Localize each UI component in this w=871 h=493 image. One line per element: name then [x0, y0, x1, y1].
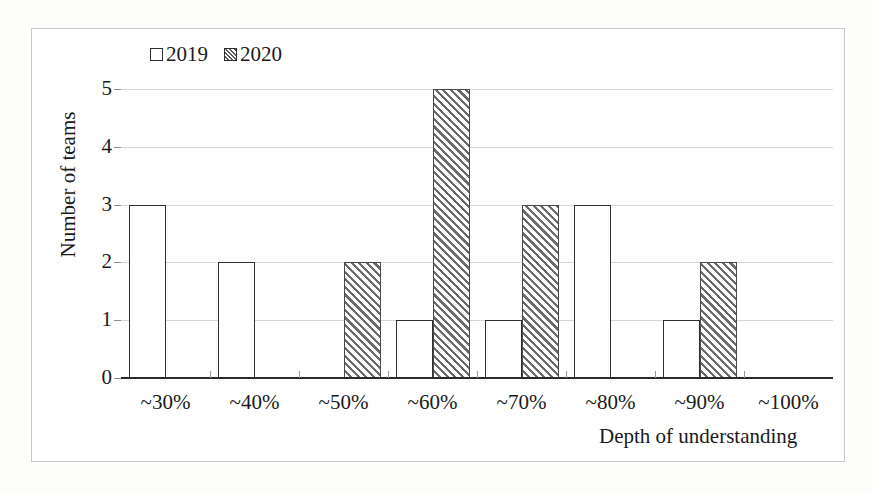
x-axis-separator-tick	[210, 371, 211, 378]
gridline	[121, 147, 833, 148]
x-axis-separator-tick	[477, 371, 478, 378]
y-axis-tick-label: 3	[84, 194, 112, 215]
legend-item-2019: 2019	[150, 44, 208, 65]
gridline	[121, 89, 833, 90]
legend-swatch-2020-hatched-icon	[224, 48, 237, 61]
x-axis-separator-tick	[566, 371, 567, 378]
x-axis-tick-label: ~100%	[744, 390, 833, 415]
bar-2019-approx-30%[interactable]	[129, 205, 166, 378]
bar-2020-approx-90%[interactable]	[700, 262, 737, 378]
x-axis-separator-tick	[388, 371, 389, 378]
y-axis-tick-mark	[114, 205, 121, 206]
x-axis-tick-label: ~80%	[566, 390, 655, 415]
bar-2019-approx-70%[interactable]	[485, 320, 522, 378]
x-axis-tick-label: ~30%	[121, 390, 210, 415]
y-axis-tick-mark	[114, 320, 121, 321]
y-axis-tick-label: 4	[84, 136, 112, 157]
bar-2019-approx-90%[interactable]	[663, 320, 700, 378]
x-axis-tick-label: ~50%	[299, 390, 388, 415]
x-axis-title: Depth of understanding	[599, 424, 797, 449]
y-axis-title: Number of teams	[56, 75, 81, 295]
bar-2019-approx-60%[interactable]	[396, 320, 433, 378]
y-axis-tick-label: 0	[84, 367, 112, 388]
bar-2019-approx-80%[interactable]	[574, 205, 611, 378]
x-axis-tick-label: ~90%	[655, 390, 744, 415]
legend-swatch-2019-empty-icon	[150, 48, 163, 61]
bar-2020-approx-50%[interactable]	[344, 262, 381, 378]
legend-label-2019: 2019	[166, 44, 208, 65]
gridline	[121, 205, 833, 206]
legend-item-2020: 2020	[224, 44, 282, 65]
y-axis-tick-label: 1	[84, 309, 112, 330]
x-axis-tick-label: ~60%	[388, 390, 477, 415]
bar-2020-approx-70%[interactable]	[522, 205, 559, 378]
x-axis-tick-label: ~40%	[210, 390, 299, 415]
y-axis-tick-label: 2	[84, 251, 112, 272]
bar-2020-approx-60%[interactable]	[433, 89, 470, 378]
x-axis-separator-tick	[744, 371, 745, 378]
chart-legend: 2019 2020	[150, 44, 282, 65]
bar-2019-approx-40%[interactable]	[218, 262, 255, 378]
x-axis-separator-tick	[655, 371, 656, 378]
y-axis-tick-labels: 012345	[84, 0, 112, 493]
y-axis-tick-mark	[114, 378, 121, 379]
y-axis-tick-label: 5	[84, 78, 112, 99]
x-axis-separator-tick	[299, 371, 300, 378]
y-axis-tick-mark	[114, 147, 121, 148]
y-axis-tick-mark	[114, 89, 121, 90]
x-axis-tick-label: ~70%	[477, 390, 566, 415]
legend-label-2020: 2020	[240, 44, 282, 65]
y-axis-tick-mark	[114, 262, 121, 263]
